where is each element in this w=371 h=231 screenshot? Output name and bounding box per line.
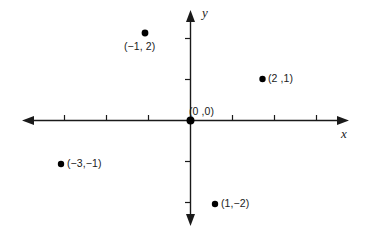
point-neg3-neg1-label: (−3,−1)	[67, 157, 102, 169]
coordinate-axes-graphic	[0, 0, 371, 231]
point-neg1-2-label: (−1, 2)	[124, 40, 155, 52]
y-axis-down-arrow-icon	[186, 214, 195, 226]
point-neg3-neg1-dot	[58, 161, 64, 167]
y-axis-up-arrow-icon	[186, 10, 195, 22]
point-1-neg2-label: (1,−2)	[221, 197, 249, 209]
point-2-1-dot	[259, 76, 265, 82]
y-axis-label: y	[202, 5, 208, 21]
point-neg1-2-dot	[142, 30, 149, 37]
point-2-1-label: (2 ,1)	[268, 72, 293, 84]
coordinate-plane-figure: y x (−1, 2) (2 ,1) (0 ,0) (−3,−1) (1,−2)	[0, 0, 371, 231]
x-axis-label: x	[341, 126, 347, 142]
x-axis-right-arrow-icon	[337, 116, 349, 125]
x-axis-left-arrow-icon	[22, 116, 34, 125]
data-points	[58, 30, 266, 208]
point-1-neg2-dot	[212, 201, 218, 207]
point-origin-label: (0 ,0)	[189, 105, 214, 117]
point-origin-dot	[187, 117, 195, 125]
